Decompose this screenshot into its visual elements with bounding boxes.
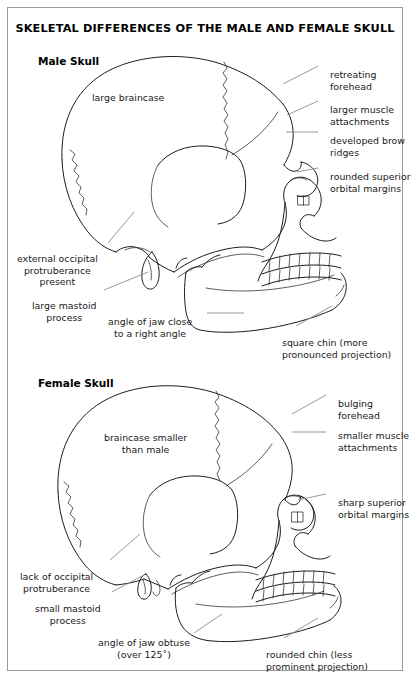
figure-title: SKELETAL DIFFERENCES OF THE MALE AND FEM… [8, 22, 402, 35]
section-heading-female: Female Skull [38, 377, 114, 389]
label-small-mastoid-process: small mastoid process [35, 603, 101, 626]
label-retreating-forehead: retreating forehead [330, 69, 376, 92]
label-bulging-forehead: bulging forehead [338, 398, 380, 421]
label-large-braincase: large braincase [92, 92, 164, 104]
label-angle-of-jaw-obtuse: angle of jaw obtuse (over 125˚) [98, 637, 190, 660]
label-sharp-superior-orbital-margins: sharp superior orbital margins [338, 497, 409, 520]
label-larger-muscle-attachments: larger muscle attachments [330, 104, 394, 127]
label-large-mastoid-process: large mastoid process [32, 300, 96, 323]
label-square-chin: square chin (more pronounced projection) [282, 337, 391, 360]
label-external-occipital-protruberance: external occipital protruberance present [17, 253, 98, 288]
section-heading-male: Male Skull [38, 55, 99, 67]
label-rounded-chin: rounded chin (less prominent projection) [266, 649, 368, 672]
label-braincase-smaller-than-male: braincase smaller than male [104, 432, 187, 455]
label-lack-of-occipital-protruberance: lack of occipital protruberance [20, 571, 93, 594]
label-angle-of-jaw-right-angle: angle of jaw close to a right angle [108, 316, 192, 339]
label-rounded-superior-orbital-margins: rounded superior orbital margins [330, 171, 411, 194]
label-smaller-muscle-attachments: smaller muscle attachments [338, 430, 409, 453]
label-developed-brow-ridges: developed brow ridges [330, 135, 405, 158]
figure-frame: SKELETAL DIFFERENCES OF THE MALE AND FEM… [7, 7, 403, 671]
